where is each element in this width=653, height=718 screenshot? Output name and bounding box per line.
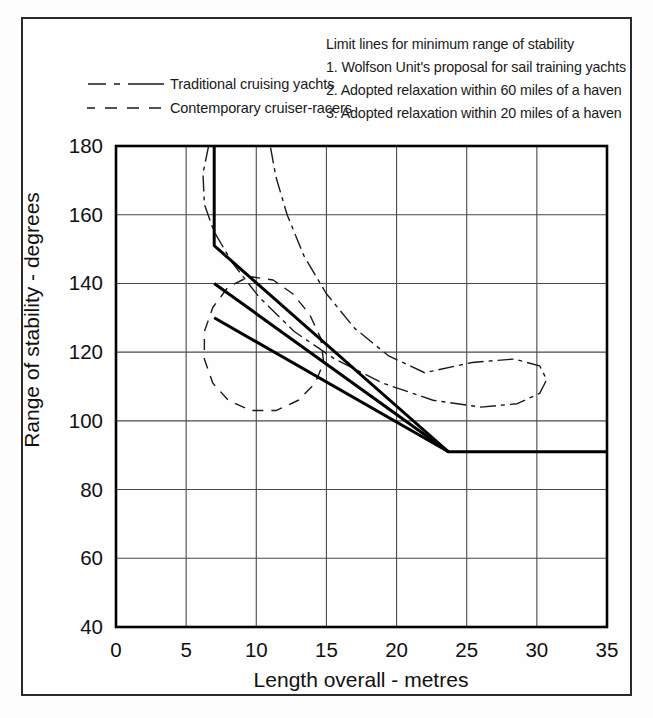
y-tick-label: 40: [80, 615, 103, 638]
x-tick-label: 25: [455, 638, 478, 661]
limit-line-3: [214, 318, 448, 452]
envelope-dashed: [204, 277, 323, 411]
axis-ticks: 05101520253035406080100120140160180: [69, 134, 619, 661]
x-tick-label: 35: [596, 638, 619, 661]
x-tick-label: 0: [110, 638, 121, 661]
x-tick-label: 30: [525, 638, 548, 661]
x-tick-label: 5: [180, 638, 191, 661]
envelope-curves: [203, 146, 547, 411]
gridlines: [116, 146, 607, 627]
limit-line-1: [214, 146, 607, 452]
y-axis-label: Range of stability - degrees: [20, 120, 44, 520]
y-tick-label: 120: [69, 340, 103, 363]
plot-border: [116, 146, 607, 627]
x-tick-label: 15: [315, 638, 338, 661]
y-tick-label: 60: [80, 546, 103, 569]
chart-plot: 05101520253035406080100120140160180: [0, 0, 653, 718]
envelope-dash-dot: [203, 146, 547, 407]
y-tick-label: 140: [69, 271, 103, 294]
x-axis-label: Length overall - metres: [115, 668, 607, 692]
figure-root: Traditional cruising yachts Contemporary…: [0, 0, 653, 718]
y-tick-label: 180: [69, 134, 103, 157]
y-tick-label: 100: [69, 409, 103, 432]
x-tick-label: 10: [245, 638, 268, 661]
y-tick-label: 80: [80, 478, 103, 501]
x-tick-label: 20: [385, 638, 408, 661]
limit-line-curves: [214, 146, 607, 452]
y-tick-label: 160: [69, 203, 103, 226]
